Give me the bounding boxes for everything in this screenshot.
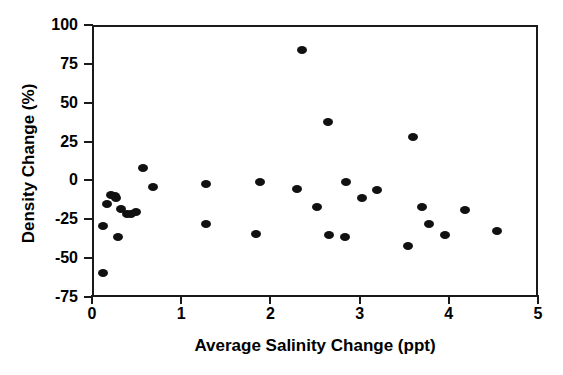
y-axis-tick-label: 25 xyxy=(26,134,78,150)
x-axis-tick-label: 5 xyxy=(518,306,558,322)
y-axis-tick-label-text: 50 xyxy=(32,95,78,111)
data-point xyxy=(340,233,350,241)
scatter-chart-figure: Density Change (%) -75-50-250255075100 0… xyxy=(0,0,563,375)
data-point xyxy=(297,46,307,54)
data-point xyxy=(403,242,413,250)
data-point xyxy=(292,185,302,193)
x-axis-tick-label-text: 5 xyxy=(518,306,558,322)
data-point xyxy=(460,206,470,214)
y-axis-tick-label: -50 xyxy=(26,250,78,266)
data-point xyxy=(372,186,382,194)
data-point xyxy=(201,220,211,228)
x-axis-tick-label: 1 xyxy=(161,306,201,322)
x-axis-tick-label-text: 1 xyxy=(161,306,201,322)
x-axis-tick-label-text: 0 xyxy=(72,306,112,322)
plot-area xyxy=(94,27,536,295)
data-point xyxy=(148,183,158,191)
y-axis-tick-label-text: -25 xyxy=(32,211,78,227)
data-point xyxy=(312,203,322,211)
data-point xyxy=(324,231,334,239)
data-point xyxy=(255,178,265,186)
data-point xyxy=(131,208,141,216)
x-axis-tick-label: 4 xyxy=(429,306,469,322)
y-axis-tick-label-text: -75 xyxy=(32,289,78,305)
y-axis-tick-label: 100 xyxy=(26,17,78,33)
data-point xyxy=(138,164,148,172)
data-point xyxy=(492,227,502,235)
y-axis-tick-label: -25 xyxy=(26,211,78,227)
y-axis-tick-label-text: 25 xyxy=(32,134,78,150)
data-point xyxy=(424,220,434,228)
y-axis-tick-label: 0 xyxy=(26,172,78,188)
y-axis-tick-label: -75 xyxy=(26,289,78,305)
y-axis-tick-label-text: -50 xyxy=(32,250,78,266)
x-axis-label: Average Salinity Change (ppt) xyxy=(92,336,538,356)
x-axis-tick-label: 0 xyxy=(72,306,112,322)
data-point xyxy=(251,230,261,238)
data-point xyxy=(98,222,108,230)
y-axis-tick-label-text: 75 xyxy=(32,56,78,72)
data-point xyxy=(357,194,367,202)
data-point xyxy=(341,178,351,186)
y-axis-tick-label-text: 0 xyxy=(32,172,78,188)
data-point xyxy=(113,233,123,241)
y-axis-tick-label: 75 xyxy=(26,56,78,72)
data-point xyxy=(417,203,427,211)
data-point xyxy=(102,200,112,208)
y-axis-tick-label-text: 100 xyxy=(32,17,78,33)
y-axis-tick-label: 50 xyxy=(26,95,78,111)
data-point xyxy=(201,180,211,188)
x-axis-tick-label: 3 xyxy=(340,306,380,322)
data-point xyxy=(98,269,108,277)
x-axis-tick-label: 2 xyxy=(250,306,290,322)
data-point xyxy=(323,118,333,126)
x-axis-tick-label-text: 4 xyxy=(429,306,469,322)
data-point xyxy=(408,133,418,141)
x-axis-tick-label-text: 2 xyxy=(250,306,290,322)
x-axis-tick-label-text: 3 xyxy=(340,306,380,322)
data-point xyxy=(440,231,450,239)
plot-frame xyxy=(92,25,538,297)
